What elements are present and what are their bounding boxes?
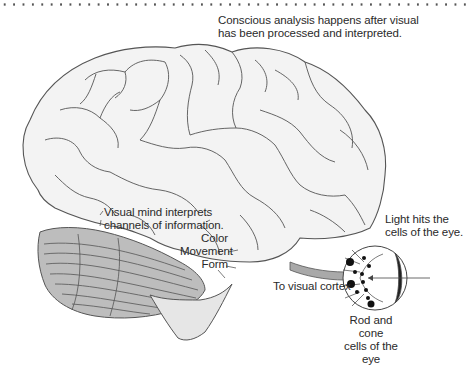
light-hits-line2: cells of the eye. (385, 226, 463, 239)
rod-cone-line2: cells of the eye (336, 340, 406, 366)
to-visual-cortex-label: To visual cortex (273, 280, 351, 293)
conscious-analysis-line2: has been processed and interpreted. (218, 27, 419, 40)
optic-nerve (290, 262, 345, 280)
rod-cone-label: Rod and cone cells of the eye (336, 314, 406, 366)
visual-mind-label: Visual mind interprets channels of infor… (104, 206, 224, 232)
visual-mind-line1: Visual mind interprets (104, 206, 224, 219)
channel-color: Color (180, 232, 228, 245)
conscious-analysis-label: Conscious analysis happens after visual … (218, 14, 419, 40)
eye (343, 246, 430, 310)
light-hits-label: Light hits the cells of the eye. (385, 213, 463, 239)
visual-mind-line2: channels of information. (104, 219, 224, 232)
light-hits-line1: Light hits the (385, 213, 463, 226)
rod-cone-line1: Rod and cone (336, 314, 406, 340)
channels-label: Color Movement Form (180, 232, 228, 271)
conscious-analysis-line1: Conscious analysis happens after visual (218, 14, 419, 27)
channel-movement: Movement (180, 245, 228, 258)
channel-form: Form (180, 258, 228, 271)
